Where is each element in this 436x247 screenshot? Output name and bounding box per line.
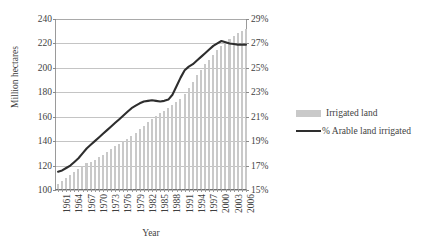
x-axis-tick-label: 1994 [197,194,207,213]
y-axis-right-tick-label: 21% [251,112,268,122]
x-axis-tick-mark [156,189,157,192]
x-axis-tick-mark [217,189,218,192]
x-axis-tick-label: 1967 [87,194,97,213]
y-axis-right-tick-label: 19% [251,136,268,146]
x-axis-tick-mark [160,189,161,192]
x-axis-tick-mark [234,189,235,192]
y-axis-left-tick-mark [53,190,56,191]
x-axis-tick-mark [201,189,202,192]
y-axis-right-tick-label: 25% [251,63,268,73]
y-axis-left-tick-label: 240 [38,14,52,24]
x-axis-tick-label: 1985 [160,194,170,213]
x-axis-tick-mark [226,189,227,192]
y-axis-left-tick-mark [53,43,56,44]
irrigated-land-chart: Million hectares 10012014016018020022024… [0,0,436,247]
x-axis-tick-mark [213,189,214,192]
legend-label: % Arable land irrigated [322,126,411,136]
legend-label: Irrigated land [326,108,377,118]
x-axis-tick-mark [181,189,182,192]
y-axis-left-tick-mark [53,166,56,167]
y-axis-right-tick-mark [246,19,249,20]
y-axis-left-tick-label: 140 [38,136,52,146]
x-axis-tick-mark [136,189,137,192]
x-axis-tick-mark [246,189,247,192]
y-axis-right-tick-label: 17% [251,161,268,171]
x-axis-tick-mark [111,189,112,192]
x-axis-tick-mark [74,189,75,192]
x-axis-tick-mark [189,189,190,192]
x-axis-tick-mark [95,189,96,192]
y-axis-left-tick-mark [53,92,56,93]
x-axis-tick-mark [193,189,194,192]
x-axis-tick-mark [152,189,153,192]
x-axis-tick-mark [132,189,133,192]
x-axis-tick-mark [91,189,92,192]
x-axis-tick-label: 1970 [99,194,109,213]
x-axis-tick-mark [107,189,108,192]
x-axis-tick-mark [172,189,173,192]
plot-area: 100120140160180200220240 15%17%19%21%23%… [55,19,247,190]
x-axis-tick-mark [119,189,120,192]
y-axis-left-tick-mark [53,141,56,142]
x-axis-tick-label: 2000 [221,194,231,213]
y-axis-right-tick-label: 23% [251,87,268,97]
x-axis-tick-mark [177,189,178,192]
y-axis-right-tick-mark [246,43,249,44]
y-axis-left-tick-mark [53,19,56,20]
y-axis-left-tick-label: 180 [38,87,52,97]
y-axis-right-tick-mark [246,68,249,69]
x-axis-tick-label: 2003 [234,194,244,213]
line-swatch-icon [296,130,321,132]
legend-item-arable-land-irrigated[interactable]: % Arable land irrigated [296,122,411,140]
y-axis-left-tick-mark [53,117,56,118]
x-axis-tick-mark [123,189,124,192]
x-axis-tick-label: 1964 [74,194,84,213]
x-axis-tick-mark [70,189,71,192]
y-axis-right-tick-label: 29% [251,14,268,24]
line-series-arable-land-irrigated [56,19,246,189]
y-axis-left-tick-mark [53,68,56,69]
x-axis-tick-label: 2006 [246,194,256,213]
x-axis-tick-mark [209,189,210,192]
x-axis-tick-mark [144,189,145,192]
x-axis-tick-mark [168,189,169,192]
x-axis-tick-mark [205,189,206,192]
x-axis-tick-label: 1988 [172,194,182,213]
y-axis-left-tick-label: 120 [38,161,52,171]
x-axis-tick-mark [164,189,165,192]
x-axis-tick-mark [242,189,243,192]
x-axis-tick-mark [197,189,198,192]
y-axis-right-tick-mark [246,141,249,142]
x-axis-tick-mark [140,189,141,192]
y-axis-left-tick-label: 200 [38,63,52,73]
x-axis-tick-mark [230,189,231,192]
x-axis-title: Year [55,228,247,238]
x-axis-tick-mark [103,189,104,192]
x-axis-tick-label: 1997 [209,194,219,213]
x-axis-tick-label: 1961 [62,194,72,213]
x-axis-tick-label: 1976 [123,194,133,213]
y-axis-title-left: Million hectares [10,22,20,132]
x-axis-tick-mark [78,189,79,192]
y-axis-right-tick-mark [246,92,249,93]
y-axis-left-tick-label: 160 [38,112,52,122]
x-axis-tick-label: 1982 [148,194,158,213]
y-axis-left-tick-label: 100 [38,185,52,195]
x-axis-tick-mark [238,189,239,192]
y-axis-left-tick-label: 220 [38,38,52,48]
x-axis-tick-mark [58,189,59,192]
x-axis-tick-mark [148,189,149,192]
x-axis-tick-label: 1979 [136,194,146,213]
line-path-svg [56,19,248,190]
y-axis-right-tick-mark [246,117,249,118]
x-axis-tick-mark [83,189,84,192]
x-axis-tick-mark [127,189,128,192]
legend: Irrigated land % Arable land irrigated [296,104,411,140]
x-axis-tick-mark [66,189,67,192]
legend-item-irrigated-land[interactable]: Irrigated land [296,104,411,122]
x-axis-tick-mark [62,189,63,192]
x-axis-tick-mark [115,189,116,192]
y-axis-right-tick-mark [246,166,249,167]
x-axis-tick-mark [185,189,186,192]
x-axis-tick-mark [221,189,222,192]
